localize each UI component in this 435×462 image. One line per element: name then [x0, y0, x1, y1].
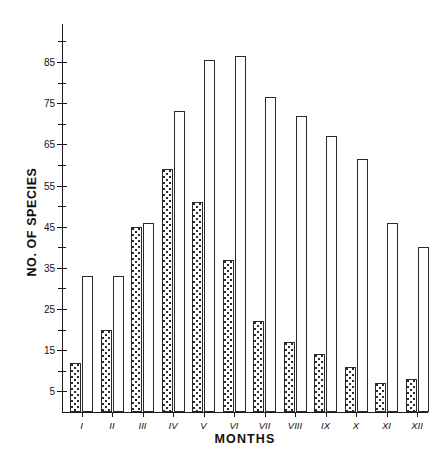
y-tick-label: 75	[44, 98, 55, 109]
x-tick-label: X	[353, 420, 359, 431]
bar-open	[174, 111, 185, 412]
x-tick-label: VII	[259, 420, 271, 431]
x-tick-label: VI	[230, 420, 239, 431]
x-axis-title: MONTHS	[60, 432, 430, 446]
y-tick-mark	[57, 268, 67, 269]
bar-open	[235, 56, 246, 412]
y-tick-label: 45	[44, 221, 55, 232]
y-tick-mark	[57, 391, 67, 392]
y-tick-minor	[58, 165, 66, 166]
x-tick-label: III	[139, 420, 147, 431]
y-tick-mark	[57, 186, 67, 187]
bar-shaded	[406, 379, 417, 412]
bar-open	[113, 276, 124, 412]
bar-shaded	[314, 354, 325, 412]
y-tick-minor	[58, 124, 66, 125]
x-tick-label: I	[80, 420, 83, 431]
x-tick-mark	[387, 413, 388, 417]
x-tick-label: II	[109, 420, 114, 431]
y-tick-label: 85	[44, 57, 55, 68]
y-tick-minor	[58, 288, 66, 289]
bar-shaded	[223, 260, 234, 412]
bar-shaded	[253, 321, 264, 412]
plot-area: 51525354555657585 IIIIIIIVVVIVIIVIIIIXXX…	[62, 24, 428, 413]
y-tick-minor	[58, 83, 66, 84]
bar-open	[357, 159, 368, 412]
y-tick-label: 35	[44, 262, 55, 273]
y-tick-label: 65	[44, 139, 55, 150]
species-per-month-bar-chart: NO. OF SPECIES MONTHS 51525354555657585 …	[0, 0, 435, 462]
bar-open	[326, 136, 337, 412]
y-tick-minor	[58, 371, 66, 372]
x-tick-mark	[265, 413, 266, 417]
y-tick-mark	[57, 227, 67, 228]
y-tick-label: 55	[44, 180, 55, 191]
y-tick-label: 25	[44, 304, 55, 315]
y-tick-label: 5	[49, 386, 55, 397]
x-tick-mark	[326, 413, 327, 417]
y-tick-minor	[58, 247, 66, 248]
x-tick-label: XII	[411, 420, 423, 431]
y-tick-label: 15	[44, 345, 55, 356]
x-tick-mark	[295, 413, 296, 417]
bar-shaded	[192, 202, 203, 412]
bar-shaded	[162, 169, 173, 412]
x-tick-mark	[417, 413, 418, 417]
x-tick-label: IV	[169, 420, 178, 431]
x-tick-mark	[234, 413, 235, 417]
x-tick-label: XI	[382, 420, 391, 431]
bar-shaded	[131, 227, 142, 412]
bar-shaded	[375, 383, 386, 412]
y-tick-mark	[57, 62, 67, 63]
x-axis-line	[62, 412, 428, 413]
x-tick-mark	[82, 413, 83, 417]
x-tick-label: VIII	[288, 420, 302, 431]
bar-open	[418, 247, 429, 412]
bar-open	[296, 116, 307, 412]
y-tick-minor	[58, 206, 66, 207]
y-tick-mark	[57, 309, 67, 310]
bar-open	[387, 223, 398, 412]
bar-shaded	[70, 363, 81, 412]
bar-shaded	[101, 330, 112, 412]
bar-open	[265, 97, 276, 412]
y-tick-mark	[57, 103, 67, 104]
x-tick-mark	[143, 413, 144, 417]
bar-open	[82, 276, 93, 412]
y-tick-minor	[58, 330, 66, 331]
x-tick-label: IX	[321, 420, 330, 431]
x-tick-label: V	[200, 420, 206, 431]
x-tick-mark	[356, 413, 357, 417]
y-axis-title: NO. OF SPECIES	[25, 112, 39, 332]
bar-open	[204, 60, 215, 412]
y-tick-mark	[57, 350, 67, 351]
y-tick-mark	[57, 144, 67, 145]
x-tick-mark	[173, 413, 174, 417]
x-tick-mark	[112, 413, 113, 417]
bar-shaded	[345, 367, 356, 412]
x-tick-mark	[204, 413, 205, 417]
y-tick-minor	[58, 41, 66, 42]
bar-open	[143, 223, 154, 412]
bar-shaded	[284, 342, 295, 412]
